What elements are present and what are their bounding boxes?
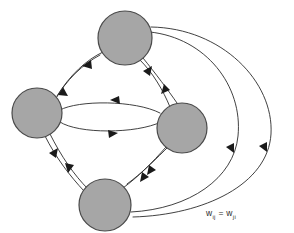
network-diagram: wij = wji [0,0,294,233]
arrowhead-top-to-right [161,84,170,94]
edge-bottom-to-left-outer [45,136,84,191]
edge-left-right [60,96,161,138]
edge-top-left [55,52,103,100]
arrowhead-sweep-outer [259,142,267,152]
node-right[interactable] [157,103,207,153]
edge-bottom-to-right-inner [127,145,170,184]
figure-canvas: wij = wji [0,0,294,233]
node-top[interactable] [98,11,152,65]
formula-label: wij = wji [205,208,236,220]
node-bottom[interactable] [79,179,131,231]
node-left[interactable] [12,88,62,138]
edge-right-bottom [123,145,170,188]
edge-right-to-top-inner [140,60,170,107]
formula-equals: = w [216,208,234,218]
edge-top-to-right-outer [143,58,177,103]
edge-right-to-left-upper [60,103,160,113]
arrowhead-sweep-inner [226,143,234,153]
node-layer [12,11,207,231]
edge-left-to-right-lower [60,122,161,131]
edge-top-right [140,58,177,107]
weight-symmetry-annotation: wij = wji [205,208,236,220]
arrowhead-right-to-top [143,66,152,76]
formula-subscript-ji: ji [232,214,236,220]
edge-left-bottom [45,134,88,191]
edge-left-to-bottom-inner [50,134,88,189]
